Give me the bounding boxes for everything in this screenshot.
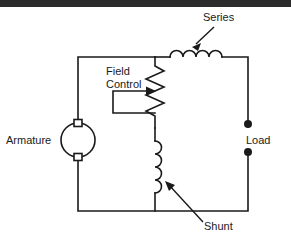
shunt-label: Shunt	[204, 220, 233, 233]
armature-circle-icon	[61, 123, 95, 157]
field-control-label-line1: Field	[106, 65, 130, 78]
armature-label: Armature	[6, 134, 51, 147]
series-label: Series	[203, 11, 234, 24]
rheostat-wiper-arrowhead-icon	[146, 87, 156, 96]
load-label: Load	[246, 134, 270, 147]
shunt-leader-line	[169, 185, 203, 222]
armature-brush-bottom-icon	[74, 154, 82, 161]
circuit-diagram	[0, 0, 291, 246]
field-control-label-line2: Control	[106, 78, 141, 91]
shunt-field-coil-icon	[155, 141, 162, 193]
wire-load-bottom-to-armature-bottom	[78, 155, 248, 211]
armature-brush-top-icon	[74, 120, 82, 127]
load-terminal-top-dot	[244, 120, 252, 128]
wire-series-coil-to-load-top	[222, 57, 248, 121]
load-terminal-bottom-dot	[244, 148, 252, 156]
series-field-coil-icon	[170, 51, 222, 58]
series-leader-line	[196, 27, 214, 44]
diagram-page: Series Field Control Armature Load Shunt	[0, 0, 291, 246]
